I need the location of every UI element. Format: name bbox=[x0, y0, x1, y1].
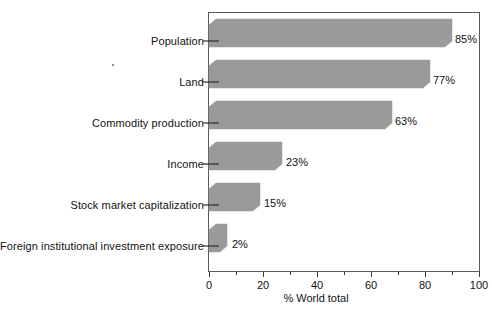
value-label-foreign-institutional-investment-exposure: 2% bbox=[232, 238, 248, 250]
value-label-stock-market-capitalization: 15% bbox=[264, 197, 286, 209]
x-tick-label-20: 20 bbox=[257, 279, 269, 291]
value-label-income: 23% bbox=[286, 156, 308, 168]
bar-income bbox=[209, 142, 282, 170]
x-axis-title-container: % World total bbox=[0, 292, 492, 304]
x-tick-label-0: 0 bbox=[206, 279, 212, 291]
bar-land bbox=[209, 60, 430, 88]
x-tick-label-80: 80 bbox=[419, 279, 431, 291]
bar-commodity-production bbox=[209, 101, 392, 129]
bar-chart: Population Land Commodity production Inc… bbox=[0, 0, 492, 316]
x-axis-title: % World total bbox=[283, 292, 348, 304]
value-label-population: 85% bbox=[455, 33, 477, 45]
x-tick-label-100: 100 bbox=[470, 279, 488, 291]
x-tick-label-60: 60 bbox=[365, 279, 377, 291]
bar-stock-market-capitalization bbox=[209, 183, 260, 211]
value-label-commodity-production: 63% bbox=[395, 115, 417, 127]
x-axis-minor-ticks bbox=[237, 272, 453, 275]
x-tick-label-40: 40 bbox=[311, 279, 323, 291]
value-label-land: 77% bbox=[433, 74, 455, 86]
bar-foreign-institutional-investment-exposure bbox=[209, 224, 227, 252]
bar-population bbox=[209, 19, 452, 47]
plot-area bbox=[0, 0, 492, 316]
